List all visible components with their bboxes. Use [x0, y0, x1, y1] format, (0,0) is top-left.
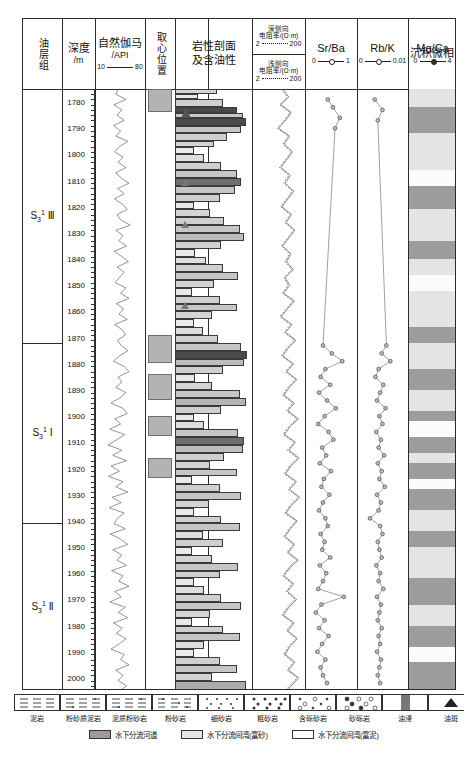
lithology-bed: [175, 209, 210, 217]
track-rbk: [357, 89, 408, 689]
lithology-bed: [175, 202, 194, 210]
legend-item-silty-mud: 粉砂质泥岩: [60, 694, 106, 723]
lithology-bed: [175, 618, 192, 626]
legend-swatch-silty-mud: [60, 694, 106, 711]
lithology-bed: [175, 421, 204, 429]
res-shallow-scale: 2 200: [256, 75, 302, 83]
legend-facies-label: 水下分流河道: [115, 729, 157, 740]
res-shallow-max: 200: [290, 75, 302, 83]
lithology-bed: [175, 523, 240, 531]
header-res-shallow: 浅侧向 电阻率/(Ω·m) 2 200: [252, 54, 305, 89]
core-interval: [148, 374, 172, 400]
legend-item-mud: 泥岩: [14, 694, 60, 723]
grading-triangle-icon: [181, 108, 191, 118]
facies-band: [409, 369, 455, 390]
legend-swatch-mud: [14, 694, 60, 711]
facies-band: [409, 421, 455, 437]
track-gamma: [95, 89, 145, 689]
res-deep-max: 200: [290, 40, 302, 48]
header-gamma: 自然伽马 /API 10 80: [95, 19, 145, 89]
srba-min: 0: [312, 57, 316, 66]
depth-label: 1870: [67, 333, 85, 342]
legend-item-siltstone: 粉砂岩: [152, 694, 198, 723]
legend-swatch-siltstone: [152, 694, 198, 711]
depth-label: 1970: [67, 595, 85, 604]
grading-triangle-icon: [181, 221, 189, 228]
res-deep-scale: 2 200: [256, 40, 302, 48]
facies-band: [409, 186, 455, 210]
lithology-bed: [175, 476, 192, 484]
header-res-deep: 深侧向 电阻率/(Ω·m) 2 200: [252, 19, 305, 54]
lithology-bed: [175, 311, 212, 319]
facies-band: [409, 411, 455, 421]
legend-facies-interbay-muddy: 水下分流间湾(富泥): [292, 729, 379, 740]
track-zone: S31 ⅢS31 ⅠS31 Ⅱ: [23, 89, 62, 689]
rbk-curve: [357, 89, 408, 689]
lithology-bed: [175, 186, 235, 194]
srba-max: 1: [346, 57, 350, 66]
depth-label: 1960: [67, 569, 85, 578]
facies-band: [409, 275, 455, 291]
depth-label: 1890: [67, 386, 85, 395]
legend-label: 细砂岩: [211, 713, 232, 723]
header-resistivity: 深侧向 电阻率/(Ω·m) 2 200 浅侧向 电阻率/(Ω·m) 2: [252, 19, 305, 89]
legend-facies-label: 水下分流间湾(富砂): [207, 729, 268, 740]
lithology-bed: [175, 414, 194, 422]
lithology-bed: [175, 555, 212, 563]
gamma-min: 10: [97, 63, 105, 72]
lithology-bed: [175, 469, 237, 477]
res-deep-min: 2: [256, 40, 260, 48]
grading-triangle-icon: [181, 179, 189, 186]
lithology-bed: [175, 343, 241, 351]
lithology-bed: [175, 280, 214, 288]
rbk-max: 0.01: [393, 57, 407, 66]
legend-swatch-sandy-conglomerate: [336, 694, 382, 711]
res-shallow-name: 浅侧向: [268, 60, 289, 67]
header-facies-label: 沉积微相: [410, 47, 454, 61]
gamma-max: 80: [135, 63, 143, 72]
facies-band: [409, 170, 455, 186]
lithology-bed: [175, 170, 237, 178]
core-interval: [148, 416, 172, 436]
track-srba: [305, 89, 357, 689]
legend-label: 粉砂岩: [165, 713, 186, 723]
header-core-label: 取心位置: [154, 32, 167, 76]
depth-label: 2000: [67, 673, 85, 682]
log-tracks: S31 ⅢS31 ⅠS31 Ⅱ 178017901800181018201830…: [23, 89, 455, 689]
legend-item-oil-immersed: 油浸: [382, 694, 428, 723]
res-deep-name: 深侧向: [268, 25, 289, 32]
resistivity-curves: [252, 89, 305, 689]
lithology-bed: [175, 508, 194, 516]
facies-band: [409, 479, 455, 489]
lithology-bed: [175, 264, 223, 272]
core-interval: [148, 335, 172, 363]
lithology-bed: [175, 665, 237, 673]
facies-band: [409, 327, 455, 343]
lithology-bed: [175, 492, 241, 500]
header-core: 取心位置: [145, 19, 175, 89]
srba-curve: [305, 89, 357, 689]
depth-label: 1930: [67, 490, 85, 499]
lithology-bed: [175, 602, 241, 610]
legend-item-oil-patch: 油斑: [428, 694, 464, 723]
depth-label: 1990: [67, 647, 85, 656]
facies-band: [409, 605, 455, 626]
header-depth-l2: /m: [74, 55, 84, 66]
facies-band: [409, 89, 455, 107]
depth-label: 1810: [67, 176, 85, 185]
header-zone-label: 油层组: [36, 38, 49, 71]
lithology-bed: [175, 288, 192, 296]
facies-band: [409, 453, 455, 463]
header-lithology: 岩性剖面 及含油性: [175, 19, 252, 89]
zone-label-3: S31 Ⅱ: [23, 523, 62, 689]
srba-scale-line: [318, 61, 344, 62]
gamma-scale-line: [107, 67, 133, 68]
legend-swatch-fine-sandstone: [198, 694, 244, 711]
lithology-bed: [175, 335, 218, 343]
lithology-bed: [175, 594, 221, 602]
header-lith-l1: 岩性剖面: [192, 40, 236, 54]
lithology-bed: [175, 461, 210, 469]
log-panel: 油层组 深度 /m 自然伽马 /API 10 80 取心位置 岩性剖面 及含油性: [22, 18, 456, 690]
depth-label: 1850: [67, 281, 85, 290]
lithology-bed: [175, 649, 194, 657]
